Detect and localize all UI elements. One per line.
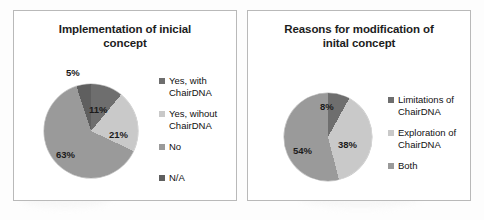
legend-item-both[interactable]: Both (388, 160, 472, 172)
legend-swatch-icon (159, 175, 165, 181)
chart-title-implementation: Implementation of inicial concept (22, 22, 228, 50)
slice-label-both: 54% (293, 145, 312, 156)
legend-item-exploration[interactable]: Exploration of ChairDNA (388, 127, 472, 150)
legend-item-yes-without[interactable]: Yes, wihout ChairDNA (159, 108, 237, 131)
legend-reasons: Limitations of ChairDNA Exploration of C… (388, 94, 472, 181)
chart-panel-implementation: Implementation of inicial concept 5% 11%… (13, 10, 237, 201)
slice-label-exploration: 38% (338, 139, 357, 150)
legend-item-na[interactable]: N/A (159, 172, 237, 184)
legend-item-label: Exploration of ChairDNA (398, 127, 456, 150)
legend-item-label: Limitations of ChairDNA (398, 94, 454, 117)
legend-item-yes-with[interactable]: Yes, with ChairDNA (159, 75, 237, 98)
legend-item-label: Both (398, 160, 418, 172)
chart-panel-reasons: Reasons for modification of inital conce… (247, 10, 471, 201)
legend-swatch-icon (159, 144, 165, 150)
slice-label-yes-without: 21% (109, 129, 128, 140)
legend-item-limitations[interactable]: Limitations of ChairDNA (388, 94, 472, 117)
slice-label-limitations: 8% (320, 101, 334, 112)
legend-item-label: N/A (169, 172, 185, 184)
legend-item-label: Yes, with ChairDNA (169, 75, 212, 98)
pie-chart-implementation: 5% 11% 21% 63% (44, 84, 138, 178)
legend-item-label: No (169, 141, 181, 153)
slice-label-no: 63% (56, 149, 75, 160)
legend-swatch-icon (388, 163, 394, 169)
legend-item-no[interactable]: No (159, 141, 237, 153)
legend-swatch-icon (159, 78, 165, 84)
slice-label-yes-with: 11% (89, 104, 108, 115)
legend-item-label: Yes, wihout ChairDNA (169, 108, 217, 131)
legend-swatch-icon (388, 130, 394, 136)
legend-implementation: Yes, with ChairDNA Yes, wihout ChairDNA … (159, 75, 237, 192)
chart-title-reasons: Reasons for modification of inital conce… (256, 22, 462, 50)
legend-swatch-icon (159, 111, 165, 117)
pie-chart-reasons: 8% 38% 54% (284, 93, 372, 181)
slice-label-na: 5% (66, 67, 80, 78)
legend-swatch-icon (388, 97, 394, 103)
